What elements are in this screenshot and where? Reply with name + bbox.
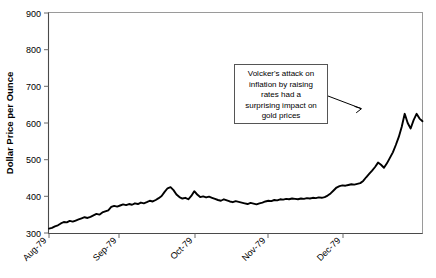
y-axis-title: Dollar Price per Ounce	[4, 72, 15, 174]
annotation-line-3: rates had a	[261, 90, 302, 99]
annotation-line-1: Volcker's attack on	[248, 69, 314, 78]
x-tick-labels: Aug-79 Sep-79 Oct-79 Nov-79 Dec-79	[21, 235, 343, 263]
annotation-line-5: gold prices	[262, 111, 301, 120]
x-tick-label-dec79: Dec-79	[315, 235, 343, 263]
gold-price-line	[49, 114, 423, 229]
y-tick-label-900: 900	[26, 9, 41, 19]
x-tick-marks	[49, 234, 343, 239]
y-tick-labels: 900 800 700 600 500 400 300	[26, 9, 41, 239]
y-tick-label-800: 800	[26, 45, 41, 55]
gold-price-chart: 900 800 700 600 500 400 300 Aug-79 Sep-7…	[0, 0, 436, 278]
y-tick-label-700: 700	[26, 82, 41, 92]
x-tick-label-nov79: Nov-79	[240, 235, 268, 263]
y-tick-label-600: 600	[26, 119, 41, 129]
y-tick-label-400: 400	[26, 192, 41, 202]
annotation-line-4: surprising impact on	[245, 101, 317, 110]
y-tick-marks	[44, 13, 49, 233]
x-tick-label-aug79: Aug-79	[21, 235, 49, 263]
y-tick-label-500: 500	[26, 155, 41, 165]
annotation-arrow	[328, 96, 362, 113]
x-tick-label-sep79: Sep-79	[91, 235, 119, 263]
annotation-line-2: inflation by raising	[249, 80, 313, 89]
x-tick-label-oct79: Oct-79	[168, 235, 194, 261]
chart-canvas: 900 800 700 600 500 400 300 Aug-79 Sep-7…	[0, 0, 436, 278]
